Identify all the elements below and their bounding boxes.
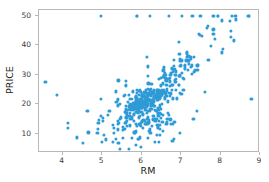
data-point [146, 74, 149, 77]
x-tick-mark [62, 152, 63, 155]
data-points-layer [39, 10, 258, 151]
data-point [111, 140, 114, 143]
data-point [170, 92, 173, 95]
data-point [168, 113, 171, 116]
y-tick-label: 40 [21, 40, 31, 49]
x-tick-label: 4 [59, 156, 64, 165]
data-point [189, 65, 192, 68]
data-point [160, 84, 163, 87]
data-point [164, 73, 167, 76]
data-point [167, 14, 170, 17]
data-point [118, 117, 121, 120]
data-point [125, 124, 128, 127]
data-point [124, 84, 127, 87]
data-point [210, 44, 213, 47]
y-tick-label: 20 [21, 99, 31, 108]
data-point [141, 127, 144, 130]
data-point [137, 137, 140, 140]
x-tick-mark [141, 152, 142, 155]
data-point [191, 14, 194, 17]
data-point [213, 37, 216, 40]
data-point [128, 147, 131, 150]
data-point [96, 132, 99, 135]
data-point [82, 141, 85, 144]
data-point [161, 120, 164, 123]
data-point [114, 137, 117, 140]
data-point [216, 14, 219, 17]
x-tick-mark [259, 152, 260, 155]
data-point [134, 130, 137, 133]
y-tick-label: 50 [21, 10, 31, 19]
data-point [204, 91, 207, 94]
data-point [134, 143, 137, 146]
data-point [175, 97, 178, 100]
data-point [139, 122, 142, 125]
data-point [177, 40, 180, 43]
data-point [67, 127, 70, 130]
data-point [159, 76, 162, 79]
x-tick-label: 7 [178, 156, 183, 165]
data-point [171, 97, 174, 100]
y-tick-label: 30 [21, 69, 31, 78]
data-point [212, 33, 215, 36]
data-point [178, 53, 181, 56]
data-point [86, 109, 89, 112]
data-point [250, 97, 253, 100]
data-point [76, 136, 79, 139]
data-point [160, 102, 163, 105]
data-point [158, 133, 161, 136]
data-point [44, 81, 47, 84]
data-point [118, 147, 121, 150]
data-point [175, 70, 178, 73]
data-point [127, 94, 130, 97]
data-point [130, 137, 133, 140]
data-point [170, 88, 173, 91]
data-point [180, 14, 183, 17]
data-point [186, 69, 189, 72]
data-point [107, 114, 110, 117]
data-point [192, 117, 195, 120]
data-point [182, 88, 185, 91]
data-point [177, 83, 180, 86]
data-point [207, 58, 210, 61]
data-point [101, 119, 104, 122]
data-point [125, 79, 128, 82]
data-point [174, 89, 177, 92]
x-tick-label: 5 [99, 156, 104, 165]
data-point [97, 121, 100, 124]
x-tick-label: 6 [138, 156, 143, 165]
y-tick-label: 10 [21, 128, 31, 137]
x-tick-mark [101, 152, 102, 155]
data-point [179, 64, 182, 67]
data-point [116, 128, 119, 131]
data-point [146, 65, 149, 68]
data-point [165, 122, 168, 125]
data-point [114, 90, 117, 93]
data-point [146, 136, 149, 139]
data-point [117, 79, 120, 82]
data-point [220, 19, 223, 22]
data-point [146, 55, 149, 58]
data-point [229, 19, 232, 22]
x-tick-label: 9 [257, 156, 262, 165]
data-point [123, 127, 126, 130]
data-point [229, 30, 232, 33]
data-point [159, 116, 162, 119]
data-point [56, 94, 59, 97]
data-point [169, 118, 172, 121]
data-point [145, 112, 148, 115]
data-point [193, 56, 196, 59]
data-point [117, 121, 120, 124]
data-point [178, 131, 181, 134]
scatter-plot-figure: PRICE RM 4567891020304050 [0, 0, 269, 182]
data-point [169, 73, 172, 76]
x-tick-mark [180, 152, 181, 155]
data-point [150, 125, 153, 128]
data-point [104, 138, 107, 141]
data-point [87, 131, 90, 134]
data-point [221, 51, 224, 54]
data-point [102, 133, 105, 136]
data-point [157, 140, 160, 143]
data-point [171, 140, 174, 143]
data-point [173, 120, 176, 123]
